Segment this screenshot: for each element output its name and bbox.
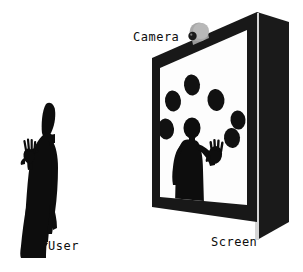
user-figure <box>20 103 58 258</box>
camera-lens <box>188 32 196 40</box>
screen-unit <box>152 12 289 240</box>
camera-label: Camera <box>133 31 179 43</box>
screen-label: Screen <box>211 236 257 248</box>
screen-side-face <box>257 12 289 240</box>
figure-root: Camera User Screen <box>0 0 303 272</box>
user-label: User <box>48 240 79 252</box>
camera-lens-glint <box>190 34 192 36</box>
